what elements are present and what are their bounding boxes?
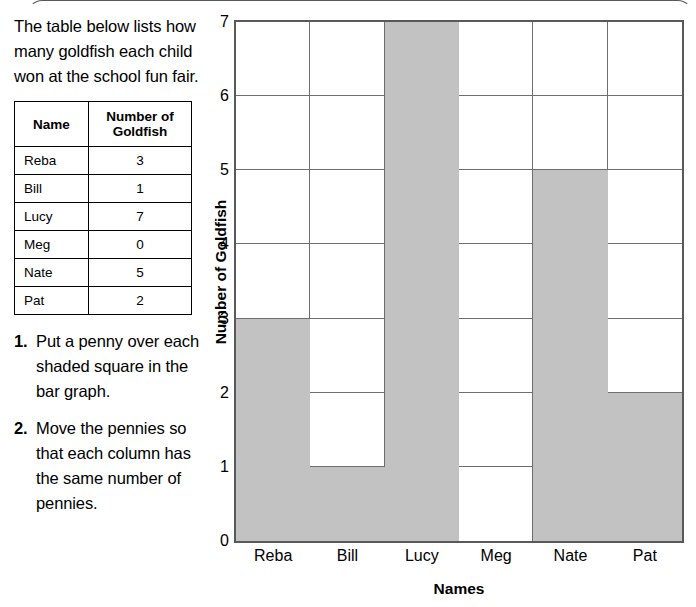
y-tick-label: 7: [220, 14, 229, 30]
cell-count: 1: [89, 175, 192, 203]
y-tick-label: 3: [220, 311, 229, 327]
table-row: Bill 1: [15, 175, 192, 203]
y-tick-label: 6: [220, 88, 229, 104]
y-tick-label: 4: [220, 236, 229, 252]
x-axis-title: Names: [234, 580, 684, 598]
goldfish-table: Name Number of Goldfish Reba 3 Bill 1 Lu…: [14, 101, 192, 315]
instructions-list: 1. Put a penny over each shaded square i…: [14, 329, 214, 516]
cell-count: 3: [89, 147, 192, 175]
instruction-number: 1.: [14, 329, 36, 404]
bar-bill: [310, 467, 384, 541]
x-tick-label: Reba: [236, 547, 310, 565]
y-tick-label: 1: [220, 459, 229, 475]
instruction-text: Move the pennies so that each column has…: [36, 416, 214, 516]
left-column: The table below lists how many goldfish …: [14, 14, 214, 528]
y-tick-label: 0: [220, 533, 229, 549]
bar-chart: Number of Goldfish 01234567 RebaBillLucy…: [196, 13, 696, 607]
bar-reba: [236, 319, 310, 541]
cell-name: Nate: [15, 259, 89, 287]
table-row: Pat 2: [15, 287, 192, 315]
table-row: Meg 0: [15, 231, 192, 259]
cell-count: 5: [89, 259, 192, 287]
instruction-number: 2.: [14, 416, 36, 516]
x-tick-label: Pat: [608, 547, 682, 565]
table-header-name: Name: [15, 102, 89, 147]
bar-pat: [608, 393, 682, 541]
instruction-item: 2. Move the pennies so that each column …: [14, 416, 214, 516]
cell-count: 2: [89, 287, 192, 315]
table-row: Lucy 7: [15, 203, 192, 231]
bar-lucy: [385, 22, 459, 541]
y-tick-label: 5: [220, 162, 229, 178]
table-header-count: Number of Goldfish: [89, 102, 192, 147]
cell-name: Bill: [15, 175, 89, 203]
cell-count: 0: [89, 231, 192, 259]
instruction-text: Put a penny over each shaded square in t…: [36, 329, 214, 404]
bar-nate: [533, 170, 607, 541]
cell-name: Lucy: [15, 203, 89, 231]
cell-count: 7: [89, 203, 192, 231]
x-tick-label: Nate: [533, 547, 607, 565]
table-header-row: Name Number of Goldfish: [15, 102, 192, 147]
cell-name: Pat: [15, 287, 89, 315]
grid-column: [310, 22, 384, 541]
cell-name: Meg: [15, 231, 89, 259]
x-tick-label: Lucy: [385, 547, 459, 565]
plot-area: 01234567 RebaBillLucyMegNatePat: [234, 20, 684, 543]
x-tick-label: Bill: [310, 547, 384, 565]
grid-column: [459, 22, 533, 541]
intro-paragraph: The table below lists how many goldfish …: [14, 14, 210, 89]
x-tick-label: Meg: [459, 547, 533, 565]
y-axis-title: Number of Goldfish: [212, 177, 230, 367]
table-row: Nate 5: [15, 259, 192, 287]
instruction-item: 1. Put a penny over each shaded square i…: [14, 329, 214, 404]
table-row: Reba 3: [15, 147, 192, 175]
cell-name: Reba: [15, 147, 89, 175]
y-tick-label: 2: [220, 385, 229, 401]
